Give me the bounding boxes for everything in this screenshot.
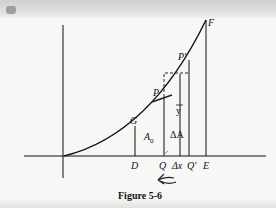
pencil-tick [162, 151, 168, 156]
label-Q-prime: Q′ [187, 161, 196, 171]
label-delta-x: Δx [172, 161, 182, 171]
label-Q: Q [159, 161, 166, 171]
label-E: E [203, 161, 209, 171]
label-P: P [153, 88, 159, 98]
label-delta-A: ΔA [170, 130, 184, 140]
label-D: D [131, 161, 138, 171]
label-A0-subscript: 0 [150, 137, 154, 145]
label-F: F [208, 18, 214, 28]
pencil-arrow-icon [158, 174, 176, 184]
area-under-curve-diagram [0, 0, 276, 208]
figure-caption: Figure 5-6 [118, 190, 162, 201]
label-A0: A0 [144, 132, 154, 145]
label-G: G [130, 116, 137, 126]
mean-value-rectangle [164, 73, 189, 97]
label-y-bar: y [176, 106, 181, 116]
label-P-prime: P′ [178, 52, 186, 62]
